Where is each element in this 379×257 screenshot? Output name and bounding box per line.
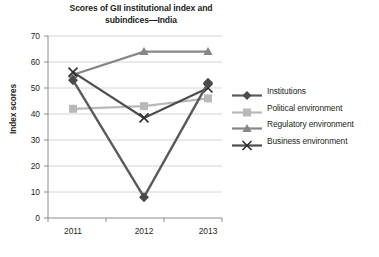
legend-item-business-environment: Business environment — [232, 136, 377, 148]
legend-key-square-icon — [232, 104, 262, 115]
x-axis-ticks — [48, 218, 222, 222]
legend-label-institutions: Institutions — [267, 86, 306, 97]
legend-key-x-icon — [232, 137, 262, 148]
legend-key-diamond-icon — [232, 87, 262, 98]
legend-item-regulatory-environment: Regulatory environment — [232, 119, 377, 131]
chart-legend: Institutions Political environment Regul… — [232, 86, 377, 152]
gridlines — [48, 36, 222, 192]
data-point-institutions-2013 — [203, 78, 213, 88]
chart-container: Scores of GII institutional index and su… — [0, 0, 379, 257]
legend-label-regulatory-environment: Regulatory environment — [267, 119, 354, 130]
data-point-business-2012 — [140, 113, 149, 122]
series-institutions — [68, 75, 213, 202]
data-point-political-2012 — [140, 102, 148, 110]
legend-label-political-environment: Political environment — [267, 103, 342, 114]
data-point-political-2013 — [204, 94, 212, 102]
legend-item-institutions: Institutions — [232, 86, 377, 98]
data-point-political-2011 — [69, 105, 77, 113]
legend-label-business-environment: Business environment — [267, 136, 347, 147]
y-axis-ticks — [44, 36, 48, 218]
series-regulatory-environment — [68, 47, 212, 78]
legend-item-political-environment: Political environment — [232, 103, 377, 115]
legend-key-triangle-icon — [232, 120, 262, 131]
